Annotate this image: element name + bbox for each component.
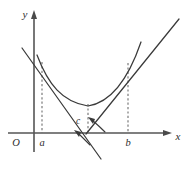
y-axis-arrowhead bbox=[31, 10, 37, 19]
x-axis bbox=[8, 130, 172, 136]
pointer-to-tangent-at-b bbox=[88, 117, 105, 132]
y-axis-label: y bbox=[22, 8, 28, 20]
x-axis-arrowhead bbox=[163, 130, 172, 136]
tangent-line-at-b bbox=[86, 19, 179, 134]
tick-label-a: a bbox=[39, 137, 44, 148]
parabola-tangent-figure: y x O a b c bbox=[0, 0, 192, 173]
pointer-to-tangent-at-b-head bbox=[88, 117, 95, 124]
x-axis-label: x bbox=[175, 130, 181, 142]
parabola-curve bbox=[37, 42, 141, 106]
pointer-to-tangent-at-b-stem bbox=[92, 120, 105, 132]
tick-label-b: b bbox=[125, 137, 130, 148]
point-label-c: c bbox=[76, 116, 81, 126]
y-axis bbox=[31, 10, 37, 152]
origin-label: O bbox=[12, 137, 20, 148]
figure-container: y x O a b c bbox=[0, 0, 192, 173]
